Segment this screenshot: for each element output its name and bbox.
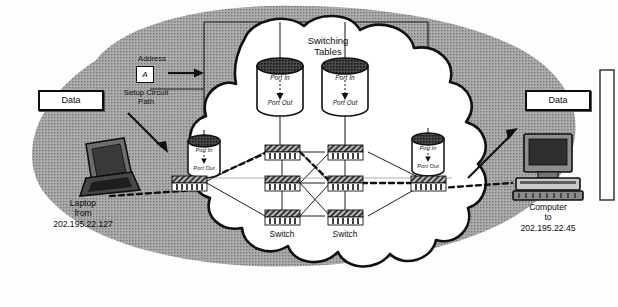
table-left-edge-port-out: Port Out	[193, 165, 215, 171]
address-label: Address	[138, 54, 166, 63]
switching-table-cylinder	[188, 135, 220, 178]
laptop-label: Laptop from 202.195.22.127	[53, 198, 113, 229]
switching-table-cylinder	[322, 58, 368, 116]
data-box-right-label: Data	[548, 96, 567, 105]
switch-label-left: Switch	[269, 229, 294, 239]
computer-ip: 202.195.22.45	[521, 223, 576, 233]
switching-tables-label: Switching Tables	[308, 36, 349, 57]
data-box-right: Data	[525, 90, 591, 111]
switch-element	[328, 176, 363, 191]
switch-element	[265, 176, 300, 191]
switch-element	[265, 210, 300, 225]
table-center-2-port-out: Port Out	[333, 99, 358, 106]
switching-table-cylinder	[257, 58, 303, 116]
data-box-left: Data	[38, 90, 104, 111]
computer-icon	[513, 134, 583, 200]
setup-circuit-path-label: Setup Circuit Path	[124, 89, 169, 107]
table-right-edge-port-in: Port In	[419, 145, 436, 151]
table-right-edge-port-out: Port Out	[417, 163, 439, 169]
address-value: A	[142, 70, 147, 79]
switch-label-right: Switch	[332, 229, 357, 239]
diagram-canvas: Data Address A Setup Circuit Path Laptop…	[0, 0, 618, 307]
switch-element	[411, 176, 446, 191]
data-box-left-label: Data	[61, 96, 80, 105]
table-center-1-port-in: Port In	[270, 74, 290, 81]
table-center-1-port-out: Port Out	[268, 99, 293, 106]
switch-element	[172, 176, 207, 191]
laptop-ip: 202.195.22.127	[53, 219, 113, 229]
address-value-box: A	[136, 66, 154, 83]
right-edge-bar	[600, 70, 614, 200]
table-center-2-port-in: Port In	[335, 74, 355, 81]
switch-element	[328, 210, 363, 225]
switching-table-cylinder	[412, 133, 444, 176]
switch-element	[265, 145, 300, 160]
switch-element	[328, 145, 363, 160]
computer-label: Computer to 202.195.22.45	[521, 202, 576, 233]
table-left-edge-port-in: Port In	[195, 147, 212, 153]
